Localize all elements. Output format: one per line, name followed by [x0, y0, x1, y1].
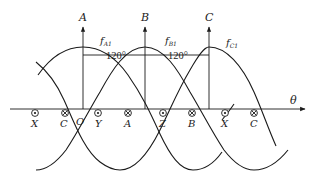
wave-label-fa1: fA1 — [99, 35, 112, 47]
angle-label-2: 120° — [168, 50, 188, 61]
phase-axis-c-label: C — [205, 11, 214, 24]
phase-axis-b-label: B — [140, 11, 149, 24]
phase-axis-c: C — [205, 11, 214, 109]
conductor-a: A — [123, 110, 131, 129]
svg-text:X: X — [30, 118, 39, 129]
dot-icon — [162, 112, 164, 114]
wave-label-fb1: fB1 — [164, 35, 177, 47]
conductor-c-1: C — [60, 110, 68, 129]
wave-label-fc1: fC1 — [225, 37, 238, 49]
svg-text:A: A — [123, 118, 131, 129]
conductor-x-2: X — [220, 110, 229, 129]
svg-text:Y: Y — [95, 118, 103, 129]
conductor-c-2: C — [250, 110, 258, 129]
wave-fb1-main — [36, 47, 288, 170]
svg-text:Z: Z — [158, 118, 167, 129]
dot-icon — [97, 112, 99, 114]
phase-axis-a: A — [78, 11, 87, 109]
origin-label: O — [76, 116, 84, 127]
svg-text:X: X — [220, 118, 229, 129]
wave-fc1 — [36, 47, 276, 170]
theta-axis-label: θ — [290, 94, 297, 107]
svg-text:fC1: fC1 — [225, 37, 238, 49]
svg-text:B: B — [187, 118, 195, 129]
wave-fa1 — [38, 47, 222, 170]
conductor-y: Y — [95, 110, 103, 129]
svg-text:fA1: fA1 — [99, 35, 112, 47]
svg-text:C: C — [60, 118, 68, 129]
conductor-x-1: X — [30, 110, 39, 129]
phase-axis-a-label: A — [78, 11, 87, 24]
svg-text:C: C — [250, 118, 258, 129]
conductor-z: Z — [158, 110, 167, 129]
angle-label-1: 120° — [106, 50, 126, 61]
phase-axis-b: B — [140, 11, 149, 109]
dot-icon — [34, 112, 36, 114]
svg-text:fB1: fB1 — [164, 35, 177, 47]
dot-icon — [224, 112, 226, 114]
conductor-b: B — [187, 110, 195, 129]
mmf-waveform-diagram: θ A B C 120° 120° fA1 fB1 fC1 O X — [0, 0, 313, 181]
